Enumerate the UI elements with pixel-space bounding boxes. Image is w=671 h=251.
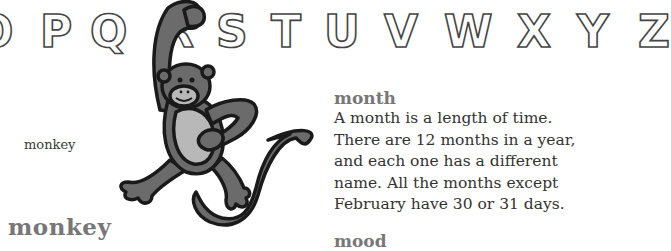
alphabet-letter-x: X (517, 8, 551, 56)
definition-line: A month is a length of time. (334, 108, 664, 130)
monkey-illustration (100, 0, 320, 241)
entry-headword-mood: mood (334, 231, 387, 251)
alphabet-letter-y: Y (577, 8, 609, 56)
entry-definition: A month is a length of time. There are 1… (334, 108, 664, 216)
definition-line: name. All the months except (334, 173, 664, 195)
entry-month: month A month is a length of time. There… (334, 88, 664, 216)
alphabet-letter-p: P (40, 8, 72, 56)
definition-line: February have 30 or 31 days. (334, 194, 664, 216)
alphabet-letter-w: W (444, 8, 493, 56)
alphabet-letter-v: V (384, 8, 418, 56)
entry-headword-monkey: monkey (8, 213, 111, 240)
illustration-caption: monkey (24, 137, 75, 152)
alphabet-letter-u: U (324, 8, 360, 56)
entry-headword: month (334, 88, 664, 108)
alphabet-letter-o: O (0, 8, 13, 56)
definition-line: and each one has a different (334, 151, 664, 173)
alphabet-letter-z: Z (638, 8, 670, 56)
definition-line: There are 12 months in a year, (334, 130, 664, 152)
